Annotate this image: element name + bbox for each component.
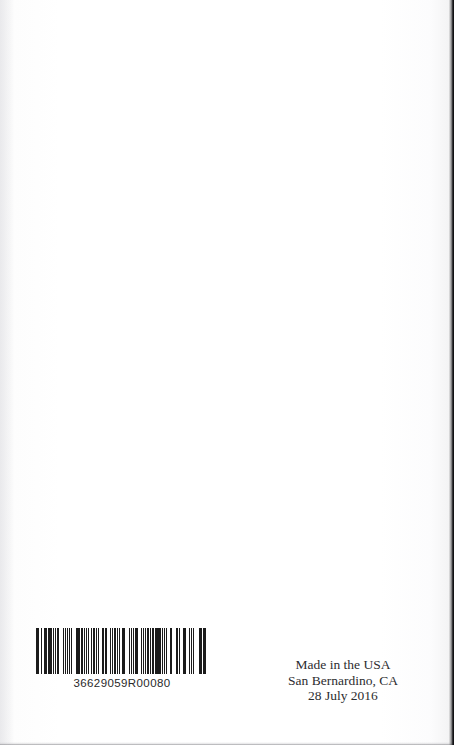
- imprint-line-city: San Bernardino, CA: [268, 673, 418, 689]
- imprint-line-made-in: Made in the USA: [268, 657, 418, 673]
- imprint-block: Made in the USA San Bernardino, CA 28 Ju…: [268, 657, 418, 704]
- scan-streak-left: [0, 0, 16, 745]
- scan-edge-right: [449, 0, 454, 745]
- barcode-symbol: [36, 628, 208, 674]
- barcode-block: 36629059R00080: [36, 628, 208, 689]
- scanned-page: 36629059R00080 Made in the USA San Berna…: [0, 0, 454, 745]
- imprint-line-date: 28 July 2016: [268, 688, 418, 704]
- barcode-number-label: 36629059R00080: [36, 677, 208, 689]
- barcode-gap: [206, 628, 207, 674]
